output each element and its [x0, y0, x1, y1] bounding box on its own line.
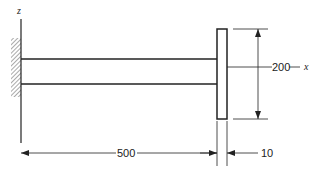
- end-plate: [217, 29, 227, 119]
- plate-thickness-dimension: [200, 150, 258, 156]
- fixed-wall-support: [11, 19, 21, 143]
- x-axis-label: x: [303, 61, 309, 72]
- z-axis-label: z: [16, 5, 21, 16]
- plate-height-dimension: [233, 29, 268, 119]
- arrow-left-icon: [227, 150, 235, 156]
- beam-length-label: 500: [117, 147, 135, 159]
- plate-height-label: 200: [272, 61, 290, 73]
- cantilever-diagram: z x 200 500 10: [0, 0, 316, 174]
- plate-thickness-label: 10: [261, 147, 273, 159]
- arrow-left-icon: [21, 150, 29, 156]
- arrow-up-icon: [255, 29, 261, 37]
- beam: [21, 59, 217, 84]
- arrow-down-icon: [255, 111, 261, 119]
- wall-hatching: [11, 38, 21, 97]
